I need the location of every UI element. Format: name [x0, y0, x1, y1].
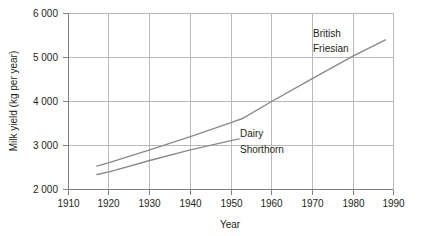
y-axis-tick-labels: 6 000 5 000 4 000 3 000 2 000	[33, 8, 58, 195]
y-tick-label-3000: 3 000	[33, 140, 58, 151]
x-tick-label-1990: 1990	[382, 198, 405, 209]
y-axis-title: Milk yield (kg per year)	[8, 51, 19, 152]
annotation-british-friesian-line2: Friesian	[313, 43, 349, 54]
x-tick-label-1920: 1920	[97, 198, 120, 209]
y-tick-label-4000: 4 000	[33, 96, 58, 107]
x-axis-tick-labels: 1910 1920 1930 1940 1950 1960 1970 1980 …	[57, 198, 405, 209]
annotation-dairy-shorthorn-line2: Shorthorn	[240, 144, 284, 155]
y-axis-tick-marks	[63, 14, 68, 190]
milk-yield-line-chart: 6 000 5 000 4 000 3 000 2 000 1910 1920 …	[0, 0, 424, 236]
x-tick-label-1940: 1940	[179, 198, 202, 209]
x-tick-label-1910: 1910	[57, 198, 80, 209]
x-tick-label-1980: 1980	[342, 198, 365, 209]
y-tick-label-2000: 2 000	[33, 184, 58, 195]
x-axis-tick-marks	[69, 190, 394, 195]
x-axis-title: Year	[220, 219, 241, 230]
x-tick-label-1960: 1960	[260, 198, 283, 209]
x-tick-label-1930: 1930	[138, 198, 161, 209]
y-tick-label-6000: 6 000	[33, 8, 58, 19]
x-tick-label-1950: 1950	[220, 198, 243, 209]
x-tick-label-1970: 1970	[301, 198, 324, 209]
annotation-british-friesian-line1: British	[313, 28, 341, 39]
annotation-dairy-shorthorn-line1: Dairy	[240, 128, 263, 139]
chart-canvas: 6 000 5 000 4 000 3 000 2 000 1910 1920 …	[0, 0, 424, 236]
y-tick-label-5000: 5 000	[33, 52, 58, 63]
